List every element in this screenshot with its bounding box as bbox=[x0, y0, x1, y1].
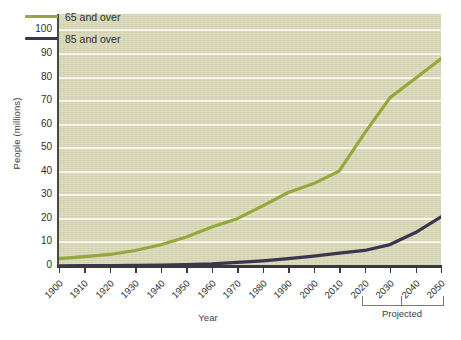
x-tick-mark-2040 bbox=[416, 267, 417, 273]
x-tick-mark-1980 bbox=[263, 267, 264, 273]
x-tick-label-1910: 1910 bbox=[63, 278, 91, 306]
x-tick-label-2000: 2000 bbox=[292, 278, 320, 306]
x-tick-mark-1920 bbox=[110, 267, 111, 273]
x-tick-mark-2020 bbox=[365, 267, 366, 273]
projected-bracket bbox=[362, 296, 444, 306]
x-tick-label-1930: 1930 bbox=[114, 278, 142, 306]
x-tick-mark-2030 bbox=[390, 267, 391, 273]
x-tick-mark-1990 bbox=[288, 267, 289, 273]
x-tick-mark-1940 bbox=[161, 267, 162, 273]
x-tick-label-1980: 1980 bbox=[241, 278, 269, 306]
legend-label-85-and-over: 85 and over bbox=[65, 33, 120, 45]
x-tick-label-1940: 1940 bbox=[139, 278, 167, 306]
legend-swatch-65-and-over bbox=[25, 15, 58, 19]
x-tick-mark-1960 bbox=[212, 267, 213, 273]
legend-item-85-and-over: 85 and over bbox=[25, 30, 120, 47]
x-tick-mark-1930 bbox=[135, 267, 136, 273]
x-tick-mark-2010 bbox=[339, 267, 340, 273]
x-tick-label-2010: 2010 bbox=[317, 278, 345, 306]
projected-label: Projected bbox=[366, 308, 438, 319]
x-tick-mark-2000 bbox=[314, 267, 315, 273]
x-tick-label-1950: 1950 bbox=[165, 278, 193, 306]
x-tick-label-1970: 1970 bbox=[216, 278, 244, 306]
x-tick-mark-1910 bbox=[84, 267, 85, 273]
x-tick-label-1900: 1900 bbox=[37, 278, 65, 306]
projected-bracket-stem bbox=[401, 296, 402, 305]
line-chart: 0102030405060708090100 19001910192019301… bbox=[0, 0, 461, 340]
legend: 65 and over 85 and over bbox=[25, 8, 120, 52]
x-tick-mark-1950 bbox=[186, 267, 187, 273]
y-axis-title: People (millions) bbox=[11, 89, 22, 179]
legend-label-65-and-over: 65 and over bbox=[65, 11, 120, 23]
legend-item-65-and-over: 65 and over bbox=[25, 8, 120, 25]
x-tick-mark-2050 bbox=[441, 267, 442, 273]
x-tick-label-1960: 1960 bbox=[190, 278, 218, 306]
x-tick-label-1990: 1990 bbox=[266, 278, 294, 306]
x-tick-mark-1900 bbox=[59, 267, 60, 273]
x-axis-title: Year bbox=[178, 312, 238, 323]
legend-swatch-85-and-over bbox=[25, 37, 58, 41]
x-tick-mark-1970 bbox=[237, 267, 238, 273]
x-tick-label-1920: 1920 bbox=[88, 278, 116, 306]
